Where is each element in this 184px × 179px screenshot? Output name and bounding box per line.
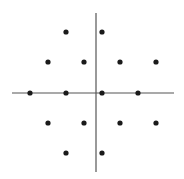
constellation-point bbox=[81, 59, 86, 64]
constellation-point bbox=[99, 90, 104, 95]
constellation-point bbox=[63, 90, 68, 95]
constellation-point bbox=[153, 59, 158, 64]
constellation-point bbox=[63, 29, 68, 34]
constellation-point bbox=[45, 120, 50, 125]
constellation-point bbox=[81, 120, 86, 125]
constellation-point bbox=[99, 29, 104, 34]
constellation-point bbox=[27, 90, 32, 95]
constellation-point bbox=[117, 120, 122, 125]
constellation-point bbox=[99, 150, 104, 155]
constellation-point bbox=[135, 90, 140, 95]
constellation-point bbox=[117, 59, 122, 64]
constellation-point bbox=[153, 120, 158, 125]
constellation-diagram bbox=[0, 0, 184, 179]
constellation-point bbox=[63, 150, 68, 155]
constellation-point bbox=[45, 59, 50, 64]
